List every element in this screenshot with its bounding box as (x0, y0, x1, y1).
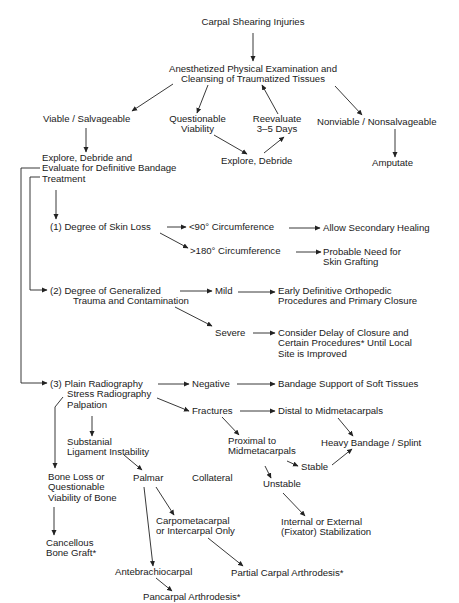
node-delay-closure: Consider Delay of Closure and Certain Pr… (278, 328, 412, 359)
edge-questionable-explore-debride (214, 135, 247, 154)
reevaluate-line-2: 3–5 Days (247, 124, 307, 134)
edge-unstable-fixator (283, 493, 305, 516)
node-partial-arthrodesis: Partial Carpal Arthrodesis* (231, 568, 344, 578)
gt180-text: >180° Circumference (190, 246, 281, 256)
node-ligament: Substanial Ligament Instability (67, 437, 149, 458)
node-collateral: Collateral (192, 473, 233, 483)
edge-stable-heavy (332, 449, 352, 465)
node-nonviable: Nonviable / Nonsalvageable (317, 117, 436, 127)
secondary-healing-text: Allow Secondary Healing (323, 223, 430, 233)
edge-palmar-carpo (156, 487, 174, 515)
node-questionable: Questionable Viability (160, 114, 235, 135)
questionable-line-2: Viability (160, 124, 235, 134)
root-text: Carpal Shearing Injuries (195, 17, 311, 27)
edge-fractures-proximal (222, 417, 239, 435)
cancellous-line-2: Bone Graft* (46, 548, 96, 558)
bandage-support-text: Bandage Support of Soft Tissues (278, 379, 418, 389)
amputate-text: Amputate (372, 158, 413, 168)
palmar-text: Palmar (133, 473, 163, 483)
fixator-line-2: (Fixator) Stabilization (281, 527, 371, 537)
edge-palmar-antebrachio (144, 487, 153, 566)
unstable-text: Unstable (263, 479, 301, 489)
node-radiography: (3) Plain Radiography Stress Radiography… (50, 379, 151, 410)
edge-antebrachio-pancarpal (156, 578, 172, 591)
node-bandage-support: Bandage Support of Soft Tissues (278, 379, 418, 389)
early-definitive-line-2: Procedures and Primary Closure (278, 296, 417, 306)
node-unstable: Unstable (263, 479, 301, 489)
fractures-text: Fractures (192, 406, 233, 416)
node-secondary-healing: Allow Secondary Healing (323, 223, 430, 233)
node-negative: Negative (192, 379, 230, 389)
bone-loss-line-3: Viability of Bone (48, 493, 117, 503)
node-skin-loss: (1) Degree of Skin Loss (50, 222, 151, 232)
node-fixator: Internal or External (Fixator) Stabiliza… (281, 517, 371, 538)
node-pancarpal-arthrodesis: Pancarpal Arthrodesis* (143, 592, 241, 602)
pancarpal-arthrodesis-text: Pancarpal Arthrodesis* (143, 592, 241, 602)
delay-closure-line-3: Site is Improved (278, 349, 412, 359)
node-carpometacarpal: Carpometacarpal or Intercarpal Only (156, 516, 235, 537)
nonviable-text: Nonviable / Nonsalvageable (317, 117, 436, 127)
edge-exam-questionable (197, 85, 208, 113)
node-reevaluate: Reevaluate 3–5 Days (247, 114, 307, 135)
heavy-bandage-text: Heavy Bandage / Splint (321, 438, 421, 448)
edge-proximal-unstable (265, 466, 271, 478)
node-proximal: Proximal to Midmetacarpals (228, 436, 296, 457)
node-amputate: Amputate (372, 158, 413, 168)
node-trauma: (2) Degree of Generalized Trauma and Con… (50, 286, 189, 307)
node-early-definitive: Early Definitive Orthopedic Procedures a… (278, 286, 417, 307)
edge-radiography-fractures (157, 398, 189, 411)
node-heavy-bandage: Heavy Bandage / Splint (321, 438, 421, 448)
node-cancellous: Cancellous Bone Graft* (46, 538, 96, 559)
edge-carpo-partial (208, 538, 243, 566)
viable-text: Viable / Salvageable (43, 114, 130, 124)
proximal-line-2: Midmetacarpals (228, 446, 296, 456)
node-gt180: >180° Circumference (190, 246, 281, 256)
node-severe: Severe (215, 328, 245, 338)
mild-text: Mild (215, 286, 233, 296)
skin-graft-line-2: Skin Grafting (323, 257, 401, 267)
severe-text: Severe (215, 328, 245, 338)
lt90-text: <90° Circumference (189, 222, 274, 232)
node-bone-loss: Bone Loss or Questionable Viability of B… (48, 472, 117, 503)
edge-exam-nonviable (335, 86, 362, 115)
stable-text: Stable (301, 462, 328, 472)
node-skin-graft: Probable Need for Skin Grafting (323, 247, 401, 268)
node-mild: Mild (215, 286, 233, 296)
node-palmar: Palmar (133, 473, 163, 483)
edge-trauma-severe (175, 307, 212, 326)
negative-text: Negative (192, 379, 230, 389)
collateral-text: Collateral (192, 473, 233, 483)
node-explore-debride: Explore, Debride (221, 156, 292, 166)
edge-exam-viable (132, 84, 173, 111)
ligament-line-2: Ligament Instability (67, 447, 149, 457)
node-antebrachiocarpal: Antebrachiocarpal (115, 567, 192, 577)
partial-arthrodesis-text: Partial Carpal Arthrodesis* (231, 568, 344, 578)
edge-skin-gt180 (160, 233, 188, 248)
trauma-line-2: Trauma and Contamination (50, 296, 189, 306)
node-viable: Viable / Salvageable (43, 114, 130, 124)
node-fractures: Fractures (192, 406, 233, 416)
node-exam: Anesthetized Physical Examination and Cl… (158, 64, 348, 85)
node-lt90: <90° Circumference (189, 222, 274, 232)
carpometacarpal-line-2: or Intercarpal Only (156, 526, 235, 536)
antebrachiocarpal-text: Antebrachiocarpal (115, 567, 192, 577)
edge-explore-trauma (30, 177, 47, 290)
skin-loss-text: (1) Degree of Skin Loss (50, 222, 151, 232)
explore-eval-line-3: Treatment (42, 174, 176, 184)
explore-debride-text: Explore, Debride (221, 156, 292, 166)
node-stable: Stable (301, 462, 328, 472)
node-distal: Distal to Midmetacarpals (278, 406, 383, 416)
node-root: Carpal Shearing Injuries (195, 17, 311, 27)
distal-text: Distal to Midmetacarpals (278, 406, 383, 416)
radiography-line-3: Palpation (50, 400, 151, 410)
edge-distal-heavy (338, 418, 353, 436)
edge-reevaluate-exam (262, 85, 278, 114)
edge-explore-debride-reevaluate (264, 137, 284, 153)
edge-explore-radiography (21, 168, 47, 383)
exam-line-2: Cleansing of Traumatized Tissues (158, 74, 348, 84)
node-explore-eval: Explore, Debride and Evaluate for Defini… (42, 153, 176, 184)
edge-proximal-stable (287, 461, 298, 466)
